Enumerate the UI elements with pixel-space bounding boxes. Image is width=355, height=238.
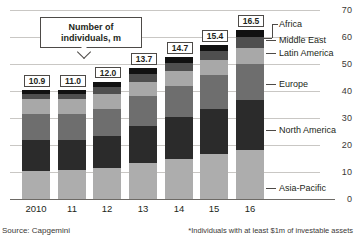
legend-label-latin-america: Latin America — [279, 49, 334, 58]
leader-line-asia-pacific — [266, 188, 276, 189]
x-tick-label-2010: 2010 — [16, 203, 56, 214]
legend-label-north-america: North America — [279, 126, 336, 135]
bar-segment-north-america-13 — [129, 126, 157, 162]
y-tick-label-50: 50 — [328, 59, 352, 69]
footnote-text: *Individuals with at least $1m of invest… — [188, 226, 353, 235]
x-tick-label-11: 11 — [52, 203, 92, 214]
bar-segment-asia-pacific-14 — [165, 159, 193, 200]
bar-segment-europe-14 — [165, 86, 193, 117]
bar-segment-middle-east-12 — [93, 87, 121, 94]
bar-12 — [93, 82, 121, 199]
leader-line-middle-east — [266, 40, 276, 41]
value-label-11: 11.0 — [60, 75, 86, 87]
x-axis-baseline — [10, 199, 335, 200]
bar-segment-middle-east-13 — [129, 74, 157, 82]
bar-segment-europe-15 — [200, 75, 228, 109]
bar-segment-asia-pacific-15 — [200, 154, 228, 199]
bar-2010 — [22, 90, 50, 199]
legend-label-middle-east: Middle East — [279, 36, 326, 45]
gridline-70 — [10, 10, 320, 11]
bar-segment-asia-pacific-12 — [93, 168, 121, 199]
y-tick-label-10: 10 — [328, 167, 352, 177]
bar-segment-middle-east-16 — [236, 37, 264, 48]
bar-segment-latin-america-15 — [200, 60, 228, 75]
leader-line-vertical-africa — [272, 24, 273, 38]
bar-segment-latin-america-2010 — [22, 99, 50, 114]
y-tick-label-60: 60 — [328, 32, 352, 42]
x-tick-label-14: 14 — [159, 203, 199, 214]
bar-16 — [236, 30, 264, 199]
leader-line-foot-africa — [264, 38, 272, 39]
leader-line-north-america — [266, 130, 276, 131]
annotation-line-2: individuals, m — [47, 33, 135, 44]
annotation-callout: Number of individuals, m — [40, 17, 142, 48]
x-tick-label-16: 16 — [230, 203, 270, 214]
bar-segment-north-america-16 — [236, 100, 264, 150]
value-label-15: 15.4 — [202, 30, 228, 42]
bar-segment-north-america-12 — [93, 136, 121, 168]
bar-segment-latin-america-13 — [129, 82, 157, 97]
bar-segment-latin-america-14 — [165, 71, 193, 86]
value-label-12: 12.0 — [95, 67, 121, 79]
bar-segment-asia-pacific-11 — [58, 170, 86, 199]
y-tick-label-70: 70 — [328, 5, 352, 15]
bar-segment-europe-2010 — [22, 114, 50, 140]
bar-segment-europe-13 — [129, 96, 157, 126]
bar-segment-africa-16 — [236, 30, 264, 37]
value-label-14: 14.7 — [167, 42, 193, 54]
bar-segment-middle-east-14 — [165, 63, 193, 71]
bar-segment-latin-america-11 — [58, 99, 86, 114]
annotation-line-1: Number of — [47, 22, 135, 33]
y-tick-label-30: 30 — [328, 113, 352, 123]
bar-segment-north-america-2010 — [22, 140, 50, 171]
x-tick-label-13: 13 — [123, 203, 163, 214]
bar-15 — [200, 45, 228, 199]
bar-segment-asia-pacific-2010 — [22, 171, 50, 199]
bar-segment-latin-america-16 — [236, 48, 264, 64]
value-label-16: 16.5 — [238, 15, 264, 27]
bar-segment-north-america-15 — [200, 109, 228, 155]
bar-segment-middle-east-15 — [200, 51, 228, 60]
leader-line-latin-america — [266, 53, 276, 54]
y-tick-label-20: 20 — [328, 140, 352, 150]
leader-line-europe — [266, 84, 276, 85]
bar-11 — [58, 90, 86, 199]
legend-label-africa: Africa — [279, 20, 302, 29]
bar-segment-asia-pacific-13 — [129, 163, 157, 199]
bar-segment-asia-pacific-16 — [236, 150, 264, 199]
bar-14 — [165, 57, 193, 199]
bar-13 — [129, 68, 157, 199]
bar-segment-north-america-11 — [58, 140, 86, 171]
bar-segment-latin-america-12 — [93, 94, 121, 109]
bar-segment-north-america-14 — [165, 117, 193, 159]
bar-segment-europe-12 — [93, 109, 121, 136]
source-text: Source: Capgemini — [2, 226, 70, 235]
x-tick-label-12: 12 — [87, 203, 127, 214]
x-tick-label-15: 15 — [194, 203, 234, 214]
legend-label-asia-pacific: Asia-Pacific — [279, 184, 326, 193]
value-label-13: 13.7 — [131, 53, 157, 65]
value-label-2010: 10.9 — [24, 75, 50, 87]
stacked-bar-chart: 010203040506070 10.911.012.013.714.715.4… — [0, 0, 355, 238]
bar-segment-europe-11 — [58, 114, 86, 140]
bar-segment-europe-16 — [236, 64, 264, 100]
y-tick-label-40: 40 — [328, 86, 352, 96]
legend-label-europe: Europe — [279, 80, 308, 89]
